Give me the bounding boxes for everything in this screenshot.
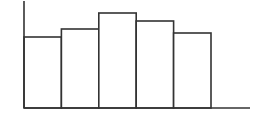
bar-3	[99, 13, 136, 108]
bar-2	[61, 29, 98, 108]
bar-chart	[0, 0, 259, 115]
bar-4	[136, 21, 173, 108]
bar-1	[24, 37, 61, 108]
bars	[24, 13, 211, 108]
bar-5	[174, 33, 211, 108]
